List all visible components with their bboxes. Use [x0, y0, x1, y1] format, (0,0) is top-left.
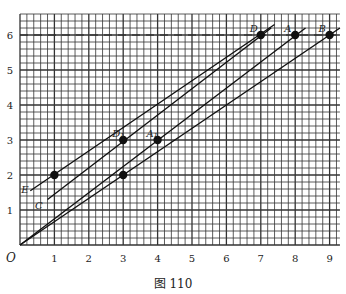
y-tick-label: 1	[7, 205, 13, 216]
x-tick-label: 8	[292, 253, 298, 264]
figure-caption: 图 110	[0, 274, 346, 291]
y-tick-label: 5	[7, 65, 13, 76]
point-label: D₁	[111, 128, 124, 139]
line-label: C	[35, 200, 43, 211]
x-tick-label: 5	[189, 253, 195, 264]
y-tick-label: 2	[7, 170, 13, 181]
chart-figure: D₁A₁DABEC 123456789123456 O	[0, 0, 346, 294]
point-label: B	[318, 23, 326, 34]
point-labels: D₁A₁DABEC	[20, 23, 326, 211]
data-point	[325, 31, 333, 39]
x-tick-label: 3	[120, 253, 126, 264]
data-point	[291, 31, 299, 39]
y-tick-label: 4	[7, 100, 13, 111]
x-tick-label: 6	[223, 253, 229, 264]
point-label: A₁	[146, 128, 158, 139]
series-line-e	[30, 25, 274, 191]
x-tick-label: 1	[51, 253, 57, 264]
point-label: A	[283, 23, 291, 34]
data-point	[50, 171, 58, 179]
x-tick-label: 2	[86, 253, 92, 264]
x-tick-label: 7	[258, 253, 264, 264]
series-line-oa	[20, 28, 306, 245]
point-label: D	[249, 23, 258, 34]
y-tick-label: 6	[7, 30, 13, 41]
x-tick-label: 9	[326, 253, 332, 264]
data-point	[119, 171, 127, 179]
series-line-c	[48, 28, 272, 200]
origin-label: O	[6, 251, 16, 265]
y-tick-label: 3	[7, 135, 13, 146]
line-label: E	[20, 184, 29, 195]
x-tick-label: 4	[154, 253, 160, 264]
data-point	[257, 31, 265, 39]
